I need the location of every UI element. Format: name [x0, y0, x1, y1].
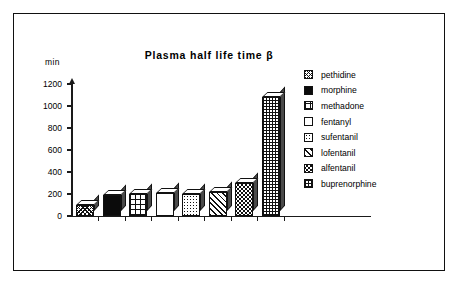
bar-face-buprenorphine — [262, 97, 280, 216]
bar-side-sufentanil — [200, 183, 205, 211]
legend-label-lofentanil: lofentanil — [321, 148, 355, 158]
legend-label-sufentanil: sufentanil — [321, 132, 358, 142]
bar-face-alfentanil — [235, 183, 253, 216]
bar-morphine — [103, 195, 121, 216]
legend-swatch-methadone — [304, 101, 313, 110]
legend-swatch-sufentanil — [304, 133, 313, 142]
y-axis-label-1000: 1000 — [28, 101, 62, 111]
chart-legend: pethidinemorphinemethadonefentanylsufent… — [304, 67, 436, 192]
bar-side-buprenorphine — [280, 87, 285, 211]
y-axis-tick-0 — [67, 215, 72, 216]
y-axis-tick-1200 — [67, 83, 72, 84]
legend-label-fentanyl: fentanyl — [321, 117, 351, 127]
bar-face-lofentanil — [209, 192, 227, 216]
x-axis-tick-0 — [98, 217, 99, 221]
x-axis-tick-4 — [204, 217, 205, 221]
x-axis-tick-6 — [257, 217, 258, 221]
y-axis-label-600: 600 — [28, 145, 62, 155]
x-axis-tick-1 — [125, 217, 126, 221]
legend-swatch-morphine — [304, 86, 313, 95]
legend-swatch-alfentanil — [304, 164, 313, 173]
x-axis-line — [71, 216, 371, 217]
legend-label-methadone: methadone — [321, 101, 364, 111]
legend-label-buprenorphine: buprenorphine — [321, 179, 376, 189]
x-axis-tick-2 — [151, 217, 152, 221]
legend-item-buprenorphine: buprenorphine — [304, 176, 436, 192]
y-axis-label-0: 0 — [28, 211, 62, 221]
chart-frame: Plasma half life time β min 020040060080… — [13, 13, 445, 271]
y-axis-label-800: 800 — [28, 123, 62, 133]
x-axis-tick-5 — [231, 217, 232, 221]
chart-title: Plasma half life time β — [114, 49, 304, 61]
bar-face-methadone — [129, 194, 147, 216]
bar-fentanyl — [156, 193, 174, 216]
legend-swatch-fentanyl — [304, 117, 313, 126]
y-axis-tick-800 — [67, 127, 72, 128]
y-axis-label-1200: 1200 — [28, 79, 62, 89]
bar-pethidine — [76, 205, 94, 216]
bar-alfentanil — [235, 183, 253, 216]
y-axis-unit-label: min — [45, 57, 60, 67]
x-axis-tick-7 — [284, 217, 285, 221]
bar-sufentanil — [182, 194, 200, 216]
legend-item-alfentanil: alfentanil — [304, 161, 436, 177]
bar-buprenorphine — [262, 97, 280, 216]
bar-chart: Plasma half life time β min 020040060080… — [14, 14, 446, 272]
legend-item-pethidine: pethidine — [304, 67, 436, 83]
bar-side-methadone — [147, 183, 152, 211]
legend-label-pethidine: pethidine — [321, 70, 356, 80]
bar-lofentanil — [209, 192, 227, 216]
legend-item-methadone: methadone — [304, 98, 436, 114]
legend-item-sufentanil: sufentanil — [304, 129, 436, 145]
bar-face-pethidine — [76, 205, 94, 216]
legend-label-morphine: morphine — [321, 85, 357, 95]
legend-item-fentanyl: fentanyl — [304, 114, 436, 130]
y-axis-label-200: 200 — [28, 189, 62, 199]
bar-face-fentanyl — [156, 193, 174, 216]
bar-side-lofentanil — [227, 181, 232, 211]
bar-side-fentanyl — [174, 182, 179, 211]
bar-side-morphine — [121, 185, 126, 211]
legend-swatch-pethidine — [304, 70, 313, 79]
legend-swatch-lofentanil — [304, 148, 313, 157]
bar-face-sufentanil — [182, 194, 200, 216]
x-axis-tick-3 — [178, 217, 179, 221]
legend-label-alfentanil: alfentanil — [321, 163, 355, 173]
legend-swatch-buprenorphine — [304, 179, 313, 188]
y-axis-tick-200 — [67, 193, 72, 194]
legend-item-lofentanil: lofentanil — [304, 145, 436, 161]
bar-face-morphine — [103, 195, 121, 216]
y-axis-tick-600 — [67, 149, 72, 150]
y-axis-tick-400 — [67, 171, 72, 172]
y-axis-label-400: 400 — [28, 167, 62, 177]
legend-item-morphine: morphine — [304, 83, 436, 99]
y-axis-tick-1000 — [67, 105, 72, 106]
bar-methadone — [129, 194, 147, 216]
